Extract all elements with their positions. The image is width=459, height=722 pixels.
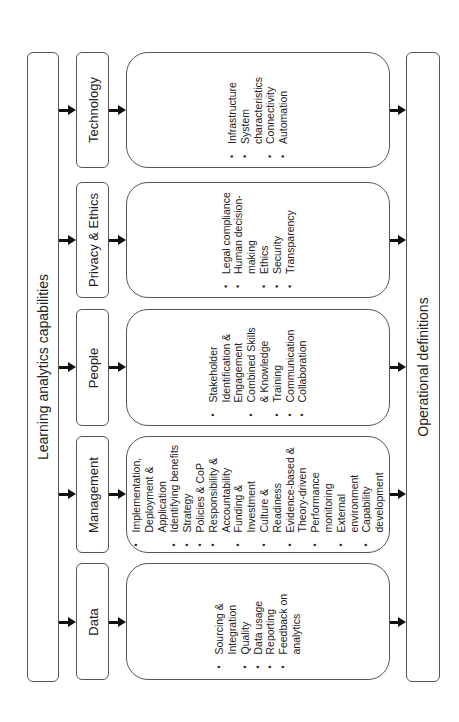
- list-item: Stakeholder Identification & Engagement: [207, 319, 245, 416]
- learning-analytics-capabilities-bar: Learning analytics capabilities: [27, 52, 59, 682]
- list-item: Sourcing & Integration: [213, 575, 239, 668]
- category-label: Privacy & Ethics: [85, 193, 100, 287]
- category-label: Technology: [85, 77, 100, 143]
- list-item: Responsibility & Accountability: [207, 443, 233, 546]
- details-box-privacy-ethics: Legal compliance Human decision-making E…: [126, 182, 390, 298]
- category-box-privacy-ethics: Privacy & Ethics: [76, 182, 109, 298]
- category-label: Data: [85, 608, 100, 635]
- list-item: Quality: [239, 575, 252, 668]
- list-item: Feedback on analytics: [277, 575, 303, 668]
- list-item: Evidence-based & Theory-driven: [284, 443, 310, 546]
- list-item: Performance monitoring: [309, 443, 335, 546]
- list-item: Funding & Investment: [232, 443, 258, 546]
- list-item: Transparency: [284, 192, 297, 288]
- list-item: Identifying benefits: [168, 443, 181, 546]
- category-box-management: Management: [76, 436, 109, 553]
- list-item: Legal compliance: [220, 192, 233, 288]
- operational-definitions-label: Operational definitions: [415, 297, 431, 436]
- list-item: External environment: [335, 443, 361, 546]
- list-item: Capability development: [360, 443, 386, 546]
- category-label: Management: [85, 457, 100, 533]
- list-item: Security: [271, 192, 284, 288]
- list-item: System characteristics: [239, 62, 265, 158]
- list-item: Communication: [284, 319, 297, 416]
- list-item: Connectivity: [264, 62, 277, 158]
- list-item: Infrastructure: [226, 62, 239, 158]
- list-item: Collaboration: [296, 319, 309, 416]
- list-item: Culture & Readiness: [258, 443, 284, 546]
- learning-analytics-capabilities-label: Learning analytics capabilities: [35, 274, 51, 460]
- list-item: Automation: [277, 62, 290, 158]
- list-item: Implementation, Deployment & Application: [130, 443, 168, 546]
- details-box-people: Stakeholder Identification & Engagement …: [126, 309, 390, 426]
- list-item: Training: [271, 319, 284, 416]
- category-box-technology: Technology: [76, 52, 109, 168]
- category-label: People: [85, 347, 100, 387]
- list-item: Ethics: [258, 192, 271, 288]
- details-box-management: Implementation, Deployment & Application…: [126, 436, 390, 553]
- details-box-technology: Infrastructure System characteristics Co…: [126, 52, 390, 168]
- list-item: Combined Skills & Knowledge: [245, 319, 271, 416]
- operational-definitions-bar: Operational definitions: [406, 52, 440, 682]
- list-item: Data usage: [252, 575, 265, 668]
- list-item: Reporting: [264, 575, 277, 668]
- list-item: Strategy: [181, 443, 194, 546]
- category-box-data: Data: [76, 563, 109, 680]
- list-item: Human decision-making: [232, 192, 258, 288]
- list-item: Policies & CoP: [194, 443, 207, 546]
- category-box-people: People: [76, 309, 109, 426]
- details-box-data: Sourcing & Integration Quality Data usag…: [126, 563, 390, 680]
